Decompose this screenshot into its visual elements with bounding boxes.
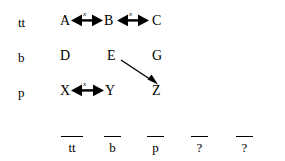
bottom-slot-p: p xyxy=(147,141,164,154)
bottom-bar-4 xyxy=(191,136,208,137)
row-label-b: b xyxy=(18,51,25,64)
node-c: C xyxy=(152,14,161,28)
node-z: Z xyxy=(152,84,161,98)
double-arrow-x-y xyxy=(71,85,104,97)
node-x: X xyxy=(60,84,70,98)
bottom-slot-unknown-2: ? xyxy=(236,141,253,154)
bottom-slot-unknown-1: ? xyxy=(191,141,208,154)
node-y: Y xyxy=(105,84,115,98)
diagram-canvas: tt b p A B C D E G X Y Z xyxy=(0,0,285,161)
bottom-slot-tt: tt xyxy=(61,141,83,154)
diagonal-arrow-e-z xyxy=(121,60,158,85)
bottom-bar-1 xyxy=(61,136,83,137)
arrow-label-x-y: x xyxy=(83,81,86,88)
node-d: D xyxy=(60,49,70,63)
node-g: G xyxy=(152,49,162,63)
arrow-label-b-c: x xyxy=(129,11,132,18)
bottom-slot-b: b xyxy=(104,141,121,154)
row-label-p: p xyxy=(18,86,25,99)
arrow-label-a-b: x xyxy=(83,11,86,18)
double-arrow-a-b xyxy=(71,15,103,27)
node-e: E xyxy=(107,49,116,63)
bottom-bar-2 xyxy=(104,136,121,137)
bottom-bar-5 xyxy=(236,136,253,137)
node-b: B xyxy=(104,14,113,28)
row-label-tt: tt xyxy=(18,16,25,29)
bottom-bar-3 xyxy=(147,136,164,137)
double-arrow-b-c xyxy=(117,15,149,27)
node-a: A xyxy=(60,14,70,28)
